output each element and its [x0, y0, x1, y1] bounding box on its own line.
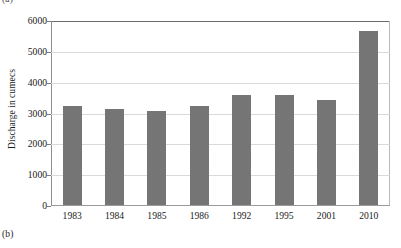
y-tick-label-6000: 6000 — [7, 16, 47, 26]
plot-area — [51, 21, 390, 206]
y-tick-label-3000: 3000 — [7, 109, 47, 119]
bar-1986 — [190, 106, 209, 205]
y-tick-label-1000: 1000 — [7, 170, 47, 180]
figure-caption-b: (b) — [2, 229, 14, 240]
y-tick-label-5000: 5000 — [7, 47, 47, 57]
figure-caption-a: (a) — [2, 0, 13, 4]
bar-1995 — [275, 95, 294, 205]
x-tick-label-2010: 2010 — [344, 210, 394, 222]
y-tick-label-4000: 4000 — [7, 78, 47, 88]
gridline-3000 — [51, 114, 390, 115]
gridline-4000 — [51, 83, 390, 84]
gridline-2000 — [51, 144, 390, 145]
bar-2010 — [359, 31, 378, 205]
y-tick-label-0: 0 — [7, 201, 47, 211]
bar-1983 — [63, 106, 82, 205]
axis-line-top — [51, 21, 390, 22]
bar-1992 — [232, 95, 251, 205]
bar-1984 — [105, 109, 124, 206]
gridline-1000 — [51, 175, 390, 176]
bar-2001 — [317, 100, 336, 205]
y-tick-label-2000: 2000 — [7, 139, 47, 149]
y-tick-0 — [47, 206, 51, 207]
bar-1985 — [147, 111, 166, 205]
gridline-5000 — [51, 52, 390, 53]
axis-line-bottom — [51, 205, 390, 206]
